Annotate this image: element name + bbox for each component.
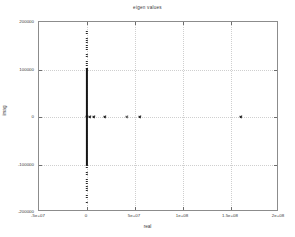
axis-tick-x [87, 207, 88, 210]
y-axis-title: imag [2, 99, 7, 123]
gridline-vertical [183, 22, 184, 210]
eigenvalue-column-lower-sparse [86, 165, 88, 203]
axis-tick-x [183, 22, 184, 25]
gridline-horizontal [39, 165, 277, 166]
axis-tick-x [231, 207, 232, 210]
axis-tick-y [39, 117, 42, 118]
chart-title: eigen values [0, 5, 295, 10]
axis-tick-x [231, 22, 232, 25]
y-tick-label: 0 [0, 114, 34, 119]
x-tick-label: 0 [85, 213, 87, 218]
x-tick-label: -5e+07 [31, 213, 45, 218]
gridline-vertical [135, 22, 136, 210]
gridline-vertical [231, 22, 232, 210]
axis-tick-y [274, 117, 277, 118]
axis-tick-x [135, 22, 136, 25]
eigenvalue-column-dense-core [86, 68, 88, 166]
y-tick-label: -100000 [0, 161, 34, 166]
gridline-horizontal [39, 70, 277, 71]
gridline-horizontal [39, 117, 277, 118]
x-axis-title: real [0, 224, 295, 229]
eigenvalue-column-upper-sparse [86, 31, 88, 69]
y-tick-label: 100000 [0, 66, 34, 71]
plot-area [38, 21, 278, 211]
y-tick-label: 200000 [0, 19, 34, 24]
x-tick-label: 1.5e+08 [222, 213, 238, 218]
y-tick-label: -200000 [0, 209, 34, 214]
x-tick-label: 5e+07 [128, 213, 140, 218]
axis-tick-y [274, 70, 277, 71]
axis-tick-y [39, 165, 42, 166]
eigenvalue-scatter-figure: eigen values imag real 200000 100000 0 -… [0, 0, 295, 237]
axis-tick-x [87, 22, 88, 25]
axis-tick-x [135, 207, 136, 210]
x-tick-label: 1e+08 [176, 213, 188, 218]
axis-tick-y [39, 70, 42, 71]
axis-tick-x [183, 207, 184, 210]
axis-tick-y [274, 165, 277, 166]
x-tick-label: 2e+08 [272, 213, 284, 218]
